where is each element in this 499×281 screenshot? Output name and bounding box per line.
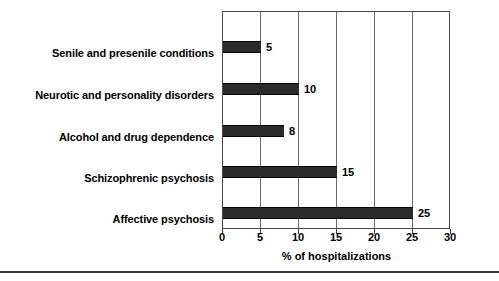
tick-label-25: 25 <box>399 231 425 244</box>
tick-label-0: 0 <box>209 231 235 244</box>
bar-value-neurotic: 10 <box>304 83 316 95</box>
category-label-schizo: Schizophrenic psychosis <box>0 172 214 184</box>
bar-senile <box>223 41 261 53</box>
category-label-neurotic: Neurotic and personality disorders <box>0 89 214 101</box>
bar-value-schizo: 15 <box>342 166 354 178</box>
tick-label-5: 5 <box>247 231 273 244</box>
bar-value-senile: 5 <box>266 41 272 53</box>
gridline-15 <box>336 12 337 228</box>
plot-area: 5 10 8 15 25 <box>222 11 450 229</box>
category-label-alcohol: Alcohol and drug dependence <box>0 131 214 143</box>
tick-label-15: 15 <box>323 231 349 244</box>
x-axis-title: % of hospitalizations <box>222 250 451 262</box>
bar-affective <box>223 207 413 219</box>
gridline-25 <box>412 12 413 228</box>
horizontal-bar-chart: Senile and presenile conditions Neurotic… <box>0 0 499 281</box>
category-label-affective: Affective psychosis <box>0 213 214 225</box>
tick-label-10: 10 <box>285 231 311 244</box>
footer-divider <box>0 271 499 273</box>
category-axis-labels: Senile and presenile conditions Neurotic… <box>0 11 218 229</box>
category-label-senile: Senile and presenile conditions <box>0 47 214 59</box>
tick-label-20: 20 <box>361 231 387 244</box>
tick-label-30: 30 <box>437 231 463 244</box>
bar-alcohol <box>223 125 284 137</box>
bar-value-alcohol: 8 <box>289 125 295 137</box>
bar-value-affective: 25 <box>418 207 430 219</box>
gridline-10 <box>298 12 299 228</box>
gridline-20 <box>374 12 375 228</box>
bar-schizo <box>223 166 337 178</box>
bar-neurotic <box>223 83 299 95</box>
